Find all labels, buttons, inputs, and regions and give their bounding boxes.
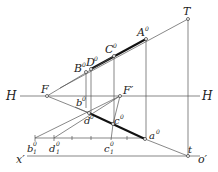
point-a0 [144,138,147,141]
svg-text:d: d [49,143,55,154]
svg-text:0: 0 [113,42,117,49]
label-c1: c 0 1 [104,140,114,155]
label-C0: C 0 [105,42,117,56]
svg-text:1: 1 [33,148,37,155]
svg-text:A: A [136,26,145,39]
line-T-B [60,19,188,88]
label-A0: A 0 [136,25,149,39]
svg-text:0: 0 [110,140,114,147]
point-Fp [119,95,122,98]
label-x: x′ [16,153,25,166]
label-o: o′ [198,153,208,166]
label-c0: c 0 [114,113,124,126]
label-Fp: F′ [122,84,134,97]
svg-text:0: 0 [33,140,37,147]
label-a0: a 0 [149,128,160,141]
label-t: t [188,144,193,155]
svg-text:a: a [149,130,155,141]
svg-text:0: 0 [82,61,86,68]
label-B0: B 0 [73,61,86,75]
label-d0: d 0 [84,113,94,126]
label-H-left: H [5,89,17,103]
svg-text:1: 1 [56,148,60,155]
label-T: T [183,5,192,18]
label-b0: b 0 [76,95,86,108]
c-to-c1 [111,124,113,140]
svg-text:1: 1 [110,148,114,155]
point-B0 [85,71,88,74]
svg-text:0: 0 [90,113,94,120]
svg-text:B: B [73,62,82,75]
line-t-a [145,139,188,156]
svg-text:0: 0 [94,55,98,62]
svg-text:0: 0 [56,140,60,147]
perspective-diagram: T A 0 C 0 D 0 B 0 F F′ H H b 0 d 0 c 0 a… [0,0,218,172]
label-b1: b 0 1 [27,140,37,155]
svg-text:0: 0 [120,113,124,120]
label-H-right: H [201,89,213,103]
label-F: F [40,83,49,96]
label-d1: d 0 1 [49,140,60,155]
svg-text:0: 0 [145,25,149,32]
svg-text:0: 0 [156,128,160,135]
svg-text:0: 0 [82,95,86,102]
